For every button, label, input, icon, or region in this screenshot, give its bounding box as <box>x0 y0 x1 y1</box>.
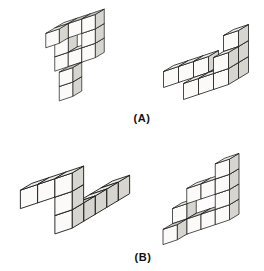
cube-face <box>20 184 37 208</box>
cube-figures-canvas <box>0 0 264 271</box>
cube-face <box>164 67 179 88</box>
cube-figure-a-left <box>46 9 105 101</box>
pair-label-b: (B) <box>135 251 152 263</box>
mental-rotation-figure: (A) (B) <box>0 0 264 271</box>
cube-face <box>184 79 199 100</box>
pair-label-a: (A) <box>134 112 151 124</box>
cube-figure-a-right <box>164 25 249 100</box>
cube-figure-b-left <box>20 166 129 234</box>
cube-face <box>163 225 177 245</box>
cube-face <box>187 184 201 204</box>
cube-figure-b-right <box>163 153 239 244</box>
